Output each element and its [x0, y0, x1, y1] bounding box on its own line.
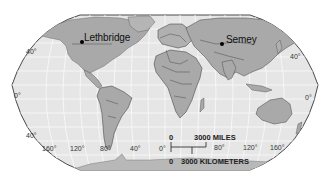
lat-label-right-0: 0° — [305, 94, 312, 101]
lon-label-0: 0° — [159, 145, 166, 152]
lon-label-80e: 80° — [214, 144, 225, 151]
lat-label-left-0: 0° — [14, 92, 21, 99]
lon-label-160e: 160° — [270, 144, 284, 151]
scale-km-label: 3000 KILOMETERS — [181, 158, 249, 166]
lon-label-120e: 120° — [243, 144, 257, 151]
scale-miles-zero: 0 — [169, 134, 173, 142]
lat-label-left-40n: 40° — [26, 48, 37, 55]
lon-label-40w: 40° — [130, 145, 141, 152]
city-label-lethbridge: Lethbridge — [84, 33, 130, 43]
lon-label-160w: 160° — [42, 145, 56, 152]
city-label-semey: Semey — [226, 35, 257, 45]
lat-label-left-40s: 40° — [26, 132, 37, 139]
lat-label-right-40n: 40° — [290, 53, 301, 60]
scale-km-zero: 0 — [169, 158, 173, 166]
scale-miles-label: 3000 MILES — [194, 134, 236, 142]
lon-label-80w: 80° — [100, 145, 111, 152]
lon-label-120w: 120° — [70, 145, 84, 152]
world-map: Lethbridge Semey 40° 0° 40° 40° 0° 160° … — [0, 0, 325, 180]
city-marker-semey — [220, 42, 224, 46]
map-canvas — [0, 0, 325, 180]
